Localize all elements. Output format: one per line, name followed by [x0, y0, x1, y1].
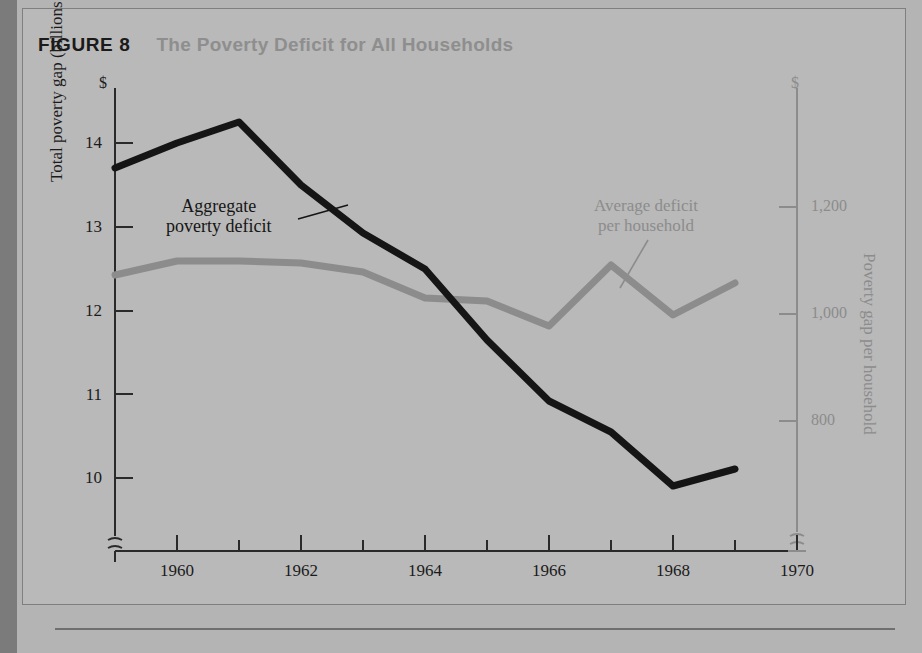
x-axis-ticks	[177, 535, 797, 551]
series-line-aggregate-poverty-deficit	[115, 122, 735, 486]
left-axis-break-icon	[108, 538, 122, 548]
left-axis-ticks	[115, 143, 133, 478]
chart-plot-area	[0, 0, 922, 653]
right-axis-ticks	[779, 207, 797, 421]
page-root: FIGURE 8 The Poverty Deficit for All Hou…	[0, 0, 922, 653]
